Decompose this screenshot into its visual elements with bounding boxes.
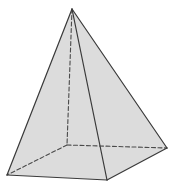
pyramid-fill [7, 9, 167, 180]
pyramid-faces [7, 9, 167, 180]
pyramid-diagram [0, 0, 179, 186]
